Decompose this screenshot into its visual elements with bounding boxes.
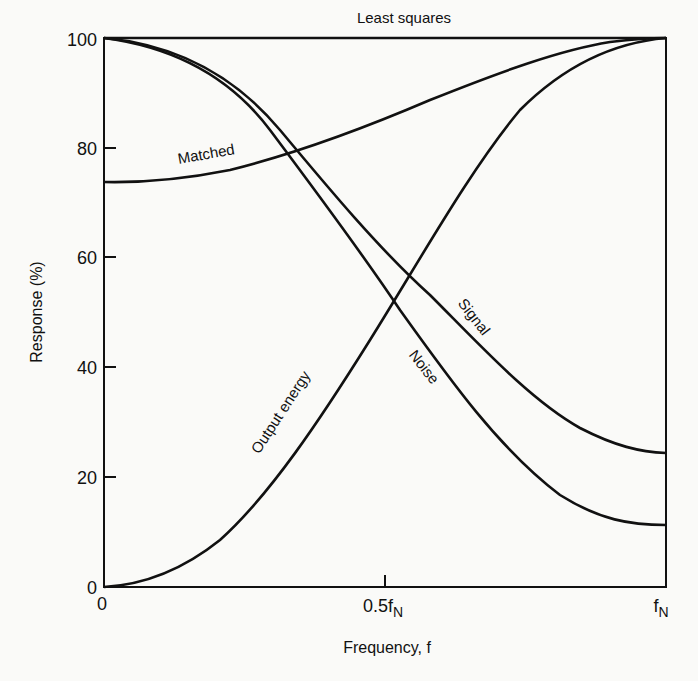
label-noise: Noise [406, 346, 443, 387]
curve-signal [104, 38, 666, 453]
y-tick-label-40: 40 [77, 358, 97, 378]
y-tick-label-100: 100 [67, 30, 97, 50]
y-tick-label-60: 60 [77, 248, 97, 268]
x-tick-label-half: 0.5fN [363, 596, 403, 620]
y-axis: 0 20 40 60 80 100 Response (%) [28, 30, 116, 598]
label-matched: Matched [176, 140, 236, 167]
x-tick-label-full: fN [653, 596, 668, 620]
response-chart: 0 20 40 60 80 100 Response (%) 0 0.5fN f… [0, 0, 698, 681]
label-signal: Signal [455, 295, 494, 338]
curve-noise [104, 38, 666, 525]
y-tick-label-80: 80 [77, 139, 97, 159]
plot-frame [104, 38, 666, 587]
curves [104, 38, 666, 587]
curve-output-energy [104, 38, 666, 587]
y-axis-title: Response (%) [28, 261, 45, 362]
curve-labels: Least squares Matched Signal Noise Outpu… [176, 9, 494, 456]
y-tick-label-20: 20 [77, 468, 97, 488]
y-tick-label-0: 0 [87, 578, 97, 598]
x-axis-title: Frequency, f [343, 639, 431, 656]
x-tick-label-0: 0 [97, 594, 107, 614]
label-least-squares: Least squares [357, 9, 451, 26]
